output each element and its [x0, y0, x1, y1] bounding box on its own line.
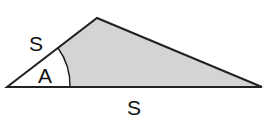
side-bottom-label: S	[127, 96, 141, 119]
side-left-label: S	[29, 32, 43, 55]
sas-triangle-diagram: S A S	[0, 0, 265, 120]
angle-label: A	[38, 64, 52, 87]
